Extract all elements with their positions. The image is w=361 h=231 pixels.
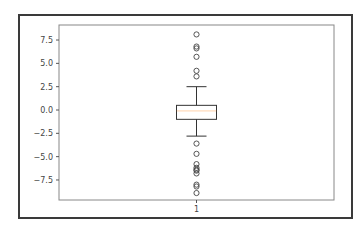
y-tick-label: 2.5 <box>40 83 53 92</box>
y-tick-label: 7.5 <box>40 36 53 45</box>
y-tick-label: 0.0 <box>40 106 53 115</box>
y-tick-label: 5.0 <box>40 59 53 68</box>
y-axis: −7.5−5.0−2.50.02.55.07.5 <box>34 36 59 185</box>
y-tick-label: −2.5 <box>34 129 53 138</box>
box <box>177 105 217 119</box>
outlier-point <box>194 141 199 146</box>
x-tick-label: 1 <box>194 205 199 214</box>
outlier-point <box>194 68 199 73</box>
x-axis: 1 <box>194 200 199 214</box>
boxplot-chart: −7.5−5.0−2.50.02.55.07.5 1 <box>0 0 361 231</box>
y-tick-label: −7.5 <box>34 176 53 185</box>
y-tick-label: −5.0 <box>34 153 53 162</box>
outlier-point <box>194 151 199 156</box>
box-series <box>177 32 217 196</box>
outlier-point <box>194 190 199 195</box>
outlier-point <box>194 54 199 59</box>
outlier-point <box>194 32 199 37</box>
outlier-point <box>194 74 199 79</box>
